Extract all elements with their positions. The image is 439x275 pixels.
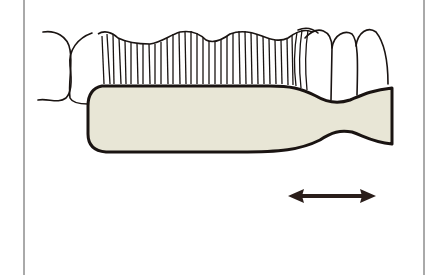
toothbrush-diagram (0, 0, 439, 275)
double-headed-arrow (288, 189, 376, 203)
brush-head-and-handle (88, 86, 392, 152)
bristles (98, 30, 312, 90)
